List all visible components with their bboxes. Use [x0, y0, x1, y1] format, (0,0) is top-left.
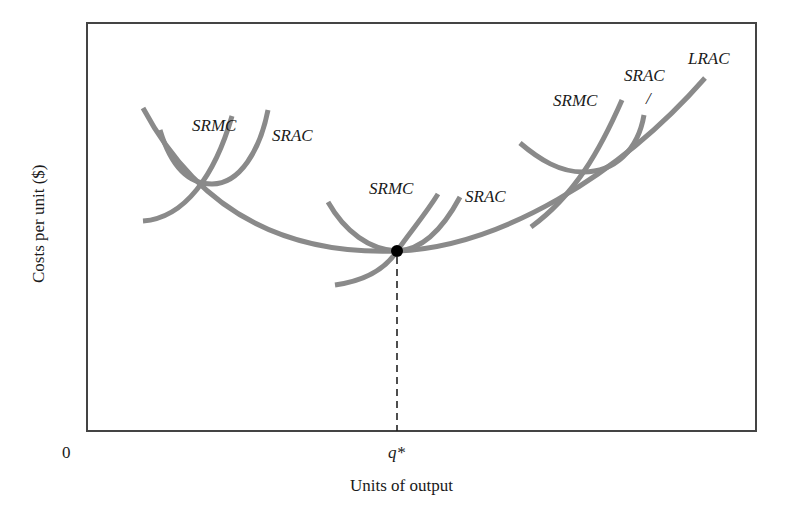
- srmc-label-3: SRMC: [553, 91, 598, 110]
- y-axis-label: Costs per unit ($): [29, 164, 48, 283]
- srmc-label-1: SRMC: [192, 116, 237, 135]
- tangency-point: [391, 245, 403, 257]
- srac-label-3-pointer: /: [645, 89, 653, 108]
- srmc-curve-2: [335, 194, 438, 285]
- srmc-label-2: SRMC: [369, 179, 414, 198]
- srac-label-2: SRAC: [465, 187, 506, 206]
- srac-curve-3: [520, 115, 644, 172]
- origin-label: 0: [62, 443, 71, 462]
- srac-label-1: SRAC: [272, 126, 313, 145]
- x-axis-label: Units of output: [350, 476, 453, 495]
- lrac-label: LRAC: [687, 49, 730, 68]
- srac-curve-2: [328, 197, 460, 251]
- cost-curves-diagram: SRMC SRAC SRMC SRAC SRMC SRAC / LRAC 0 q…: [0, 0, 785, 519]
- srac-label-3: SRAC: [624, 66, 665, 85]
- q-star-label: q*: [388, 443, 406, 462]
